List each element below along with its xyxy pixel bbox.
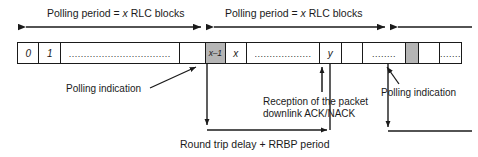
round-trip-label: Round trip delay + RRBP period (180, 138, 330, 150)
reception-text-2: downlink ACK/NACK (263, 108, 355, 119)
polling-indication-left-label: Polling indication (66, 83, 141, 95)
polling-indication-right-leader (387, 67, 399, 84)
polling-indication-right-label: Polling indication (381, 87, 456, 99)
polling-indication-right-text: Polling indication (381, 87, 456, 98)
reception-label-line1: Reception of the packet (263, 96, 368, 108)
reception-label-line2: downlink ACK/NACK (263, 108, 355, 120)
round-trip-text: Round trip delay + RRBP period (180, 138, 330, 150)
polling-indication-left-text: Polling indication (66, 83, 141, 94)
arrow-layer (0, 0, 478, 157)
rlc-polling-diagram: Polling period = x RLC blocks Polling pe… (0, 0, 478, 157)
reception-text-1: Reception of the packet (263, 96, 368, 107)
polling-indication-left-leader (150, 67, 196, 88)
